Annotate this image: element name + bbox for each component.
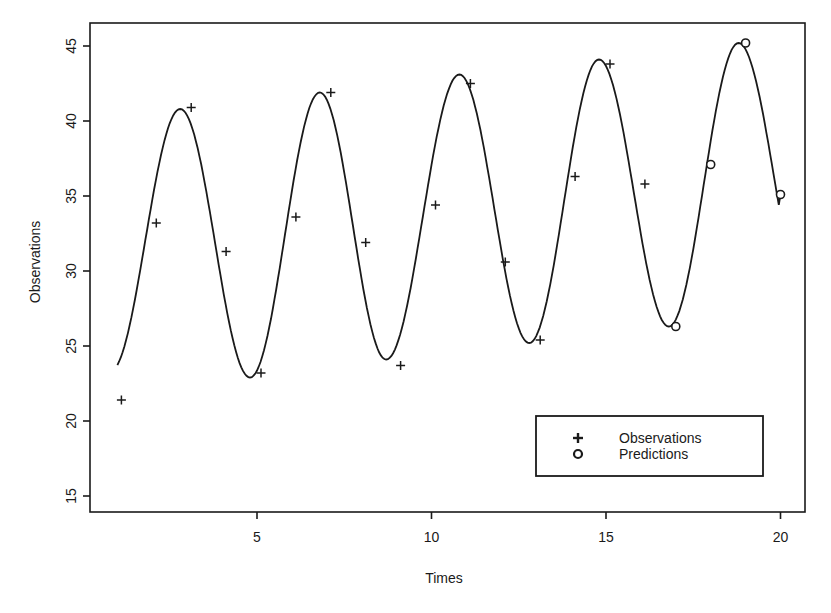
fitted-curve-line [117,43,780,378]
y-tick-label: 40 [63,113,79,129]
y-tick-label: 15 [63,488,79,504]
x-axis: 5101520 [253,512,788,545]
legend-label: Predictions [619,446,688,462]
y-tick-label: 35 [63,188,79,204]
y-tick-label: 25 [63,338,79,354]
prediction-marker [742,39,750,47]
observation-points [117,60,650,405]
y-axis: 15202530354045 [63,38,90,504]
legend: ObservationsPredictions [536,416,763,476]
x-axis-title: Times [425,570,463,586]
y-tick-label: 45 [63,38,79,54]
y-tick-label: 30 [63,263,79,279]
prediction-marker [672,323,680,331]
prediction-marker [777,191,785,199]
time-series-chart: 15202530354045 5101520 Observations Time… [0,0,831,613]
x-tick-label: 15 [598,529,614,545]
x-tick-label: 10 [424,529,440,545]
prediction-marker [707,161,715,169]
y-axis-title: Observations [27,221,43,303]
y-tick-label: 20 [63,413,79,429]
prediction-points [672,39,785,331]
legend-label: Observations [619,430,701,446]
x-tick-label: 5 [253,529,261,545]
circle-icon [574,450,582,458]
x-tick-label: 20 [773,529,789,545]
